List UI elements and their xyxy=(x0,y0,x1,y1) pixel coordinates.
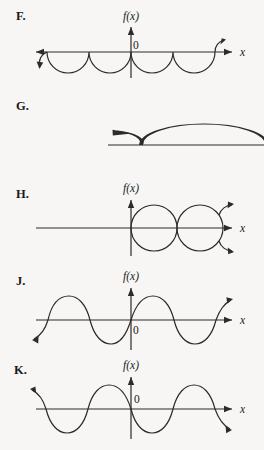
y-axis-arrowhead xyxy=(128,200,134,208)
curve-h-upper-arrowhead xyxy=(228,202,234,209)
curve-f-left-arrowhead xyxy=(37,62,44,70)
curve-j-right-arrowhead xyxy=(226,297,233,304)
x-axis-label: x xyxy=(239,314,246,326)
origin-label: 0 xyxy=(133,324,139,336)
curve-j-left-tail xyxy=(34,320,48,339)
graph-f: f(x) x 0 xyxy=(0,0,264,90)
graph-k: f(x) x 0 xyxy=(0,353,264,450)
curve-k-left-tail xyxy=(32,390,46,409)
x-axis-label: x xyxy=(239,222,246,234)
curve-h-lower-arrowhead xyxy=(228,248,234,255)
y-axis-label: f(x) xyxy=(123,182,139,195)
y-axis-arrowhead xyxy=(128,377,134,385)
graph-g: f(x) x 0 xyxy=(0,90,264,178)
x-axis-arrowhead xyxy=(224,406,232,412)
panel-h: H. f(x) x xyxy=(0,178,264,262)
x-axis-label: x xyxy=(239,46,246,58)
curve-k-left-arrowhead xyxy=(30,387,36,394)
y-axis-arrowhead xyxy=(128,27,134,35)
curve-k-right-arrowhead xyxy=(226,427,232,434)
panel-k: K. f(x) x 0 xyxy=(0,353,264,450)
x-axis-arrowhead xyxy=(224,49,232,55)
origin-label: 0 xyxy=(134,393,140,405)
x-axis-label: x xyxy=(239,403,246,415)
x-axis-arrowhead xyxy=(224,225,232,231)
x-axis-arrowhead xyxy=(224,317,232,323)
y-axis-arrowhead xyxy=(128,288,134,296)
curve-j-right-tail xyxy=(216,300,231,320)
curve-g-left xyxy=(141,124,264,145)
curve-f-right-arrowhead xyxy=(220,38,226,44)
curve-k-right-tail xyxy=(215,409,230,429)
graph-h: f(x) x xyxy=(0,178,264,262)
graph-j: f(x) x 0 xyxy=(0,262,264,353)
panel-f: F. f(x) x 0 xyxy=(0,0,264,90)
origin-label: 0 xyxy=(133,39,139,51)
panel-j: J. f(x) x 0 xyxy=(0,262,264,353)
y-axis-label: f(x) xyxy=(123,10,139,23)
answer-choice-figure: F. f(x) x 0 G. xyxy=(0,0,264,450)
y-axis-label: f(x) xyxy=(123,270,139,283)
panel-g: G. f(x) x 0 xyxy=(0,90,264,178)
y-axis-label: f(x) xyxy=(123,359,139,372)
